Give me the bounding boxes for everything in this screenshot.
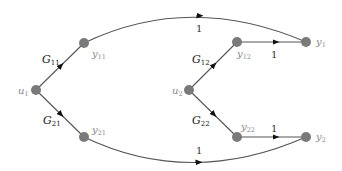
node-y1 [301,37,311,47]
label-y21: y21 [91,124,106,137]
gain-g22: G22 [192,114,210,128]
label-u2: u2 [172,85,183,98]
node-u1 [31,85,41,95]
gain-y12-y1: 1 [271,49,277,60]
gain-y22-y2: 1 [271,123,277,134]
gain-top-arc: 1 [196,23,202,34]
node-y12 [232,37,242,47]
node-y11 [79,38,89,48]
node-y21 [79,132,89,142]
node-y22 [232,132,242,142]
gain-g12: G12 [192,53,210,67]
label-y12: y12 [236,48,251,61]
edge-u2-y12 [189,42,237,90]
gain-g21: G21 [43,114,61,128]
node-y2 [301,132,311,142]
label-y2: y2 [315,131,326,144]
edge-y21-y2 [84,137,306,163]
edge-u1-y11 [36,43,84,90]
label-u1: u1 [18,85,29,98]
signal-flow-graph: u1 y11 y21 u2 y12 y22 y1 y2 G11 G21 G12 … [0,0,342,171]
gain-g11: G11 [42,53,60,67]
node-u2 [184,85,194,95]
label-y1: y1 [315,36,326,49]
label-y11: y11 [91,48,106,61]
label-y22: y22 [240,121,255,134]
edge-y11-y1 [84,16,306,43]
gain-bottom-arc: 1 [196,145,202,156]
